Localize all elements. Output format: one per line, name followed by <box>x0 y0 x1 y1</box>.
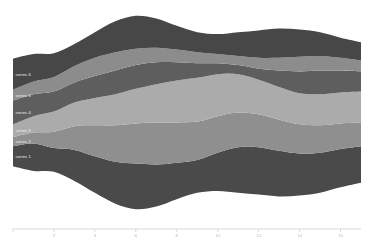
series-label-1: series 1 <box>16 154 32 159</box>
streamgraph-canvas: series 1series 2series 3series 4series 5… <box>0 0 367 249</box>
x-tick-label-12: 12 <box>256 233 261 238</box>
x-tick-label-10: 10 <box>215 233 220 238</box>
x-tick-label-2: 2 <box>53 233 56 238</box>
series-label-2: series 2 <box>16 139 32 144</box>
streamgraph-chart: series 1series 2series 3series 4series 5… <box>0 0 367 249</box>
x-tick-label-4: 4 <box>94 233 97 238</box>
series-label-5: series 5 <box>16 93 32 98</box>
x-tick-label-8: 8 <box>176 233 179 238</box>
x-tick-label-14: 14 <box>297 233 302 238</box>
series-label-3: series 3 <box>16 128 32 133</box>
series-label-6: series 6 <box>16 72 32 77</box>
x-axis-group: 246810121416 <box>13 229 361 238</box>
x-tick-label-16: 16 <box>338 233 343 238</box>
series-label-4: series 4 <box>16 110 32 115</box>
stream-bands-group <box>13 16 361 210</box>
x-tick-label-6: 6 <box>135 233 138 238</box>
